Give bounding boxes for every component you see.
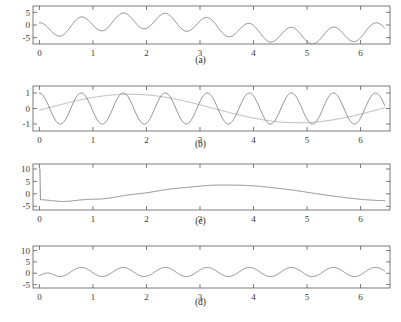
series-ripple-oscillation (39, 267, 384, 276)
y-tick-label: 0 (26, 104, 31, 114)
panel-b-caption: (b) (0, 139, 401, 149)
y-tick-label: 5 (26, 177, 31, 187)
y-tick-label: -1 (23, 119, 31, 129)
series-low-frequency-sine (39, 94, 384, 123)
series-low-frequency-envelope-with-startup-spike (39, 169, 384, 202)
y-tick-label: 0 (26, 268, 31, 278)
plot-frame (33, 246, 390, 288)
y-tick-label: 10 (21, 246, 31, 256)
figure-root: 012345650-5(a)012345610-1(b)01234561050-… (0, 0, 401, 322)
plot-frame (33, 86, 390, 131)
y-tick-label: 5 (26, 8, 31, 18)
series-modulated-oscillation (39, 13, 384, 44)
y-tick-label: -5 (23, 201, 31, 211)
y-tick-label: 1 (26, 88, 31, 98)
plot-frame (33, 164, 390, 210)
y-tick-label: 5 (26, 257, 31, 267)
y-tick-label: 10 (21, 164, 31, 174)
panel-c-caption: (c) (0, 216, 401, 226)
y-tick-label: 0 (26, 20, 31, 30)
y-tick-label: 0 (26, 189, 31, 199)
panel-a-caption: (a) (0, 55, 401, 65)
panel-d-caption: (d) (0, 297, 401, 307)
y-tick-label: -5 (23, 33, 31, 43)
y-tick-label: -5 (23, 280, 31, 290)
plot-frame (33, 6, 390, 44)
